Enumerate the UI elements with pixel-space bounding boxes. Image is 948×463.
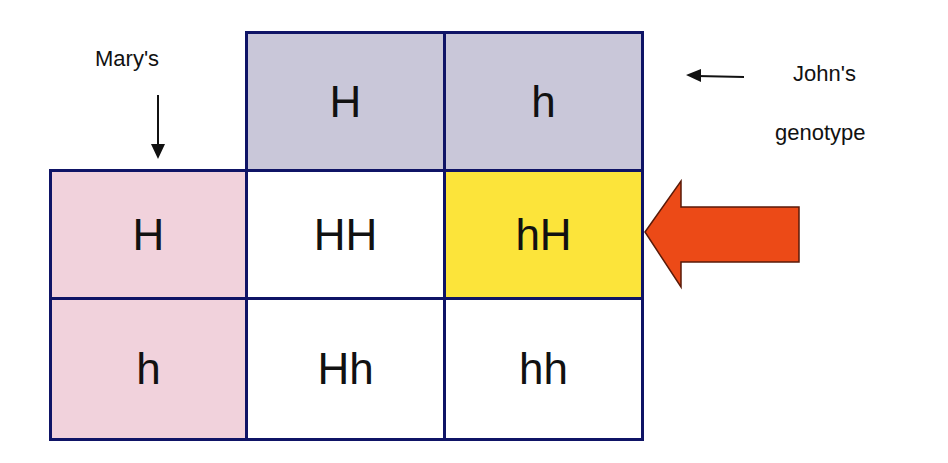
highlight-pointer-arrow-icon xyxy=(645,181,799,287)
john-left-arrow-icon xyxy=(686,69,744,82)
arrows-layer xyxy=(0,0,948,463)
mary-down-arrow-icon xyxy=(151,95,165,159)
